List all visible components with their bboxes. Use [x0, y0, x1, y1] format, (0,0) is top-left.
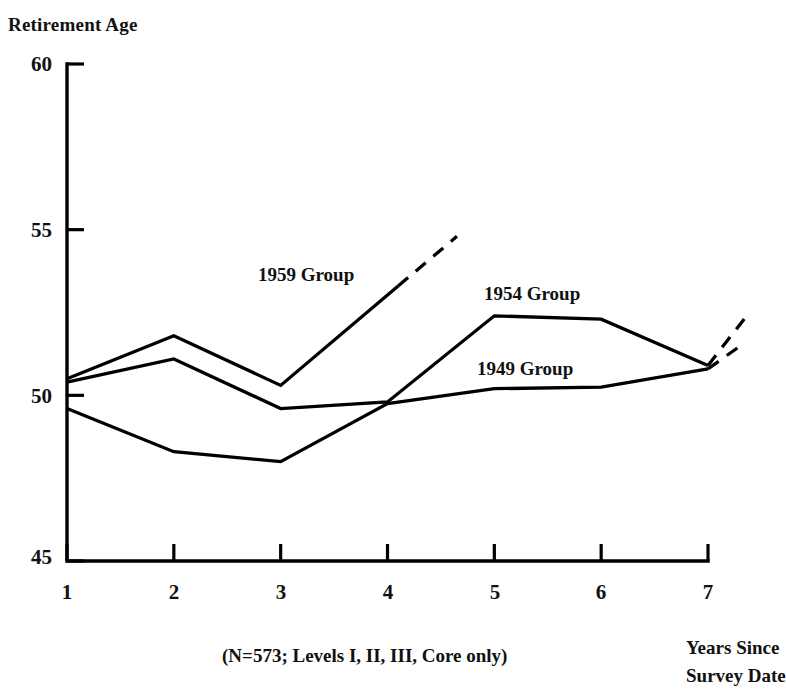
data-series-lines — [67, 236, 745, 461]
series-line-1954-group — [67, 316, 708, 409]
series-projection-1949-group — [708, 342, 745, 369]
axis-ticks — [67, 64, 708, 561]
series-line-1949-group — [67, 369, 708, 462]
series-projection-1959-group — [398, 236, 457, 286]
series-projection-1954-group — [708, 317, 745, 365]
axis-lines — [67, 64, 708, 561]
